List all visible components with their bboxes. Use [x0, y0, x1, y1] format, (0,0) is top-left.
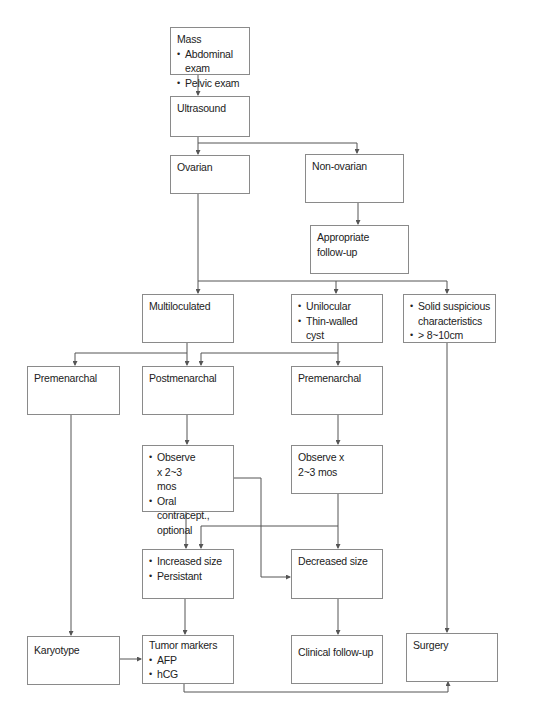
node-karyotype: Karyotype	[27, 636, 120, 685]
node-multiloculated: Multiloculated	[142, 294, 234, 343]
node-title: Multiloculated	[149, 299, 227, 314]
node-title: Ovarian	[177, 160, 243, 175]
node-increased-size: Increased size Persistant	[142, 549, 234, 599]
node-bullet: AFP	[149, 653, 227, 668]
node-bullet: Oral contracept., optional	[149, 494, 229, 538]
node-tumor-markers: Tumor markers AFP hCG	[142, 635, 234, 684]
node-bullet: Unilocular	[298, 299, 362, 314]
node-bullet: Observe x 2~3 mos	[149, 450, 229, 494]
connector-lines	[0, 0, 557, 721]
node-title: Tumor markers	[149, 638, 227, 653]
node-appropriate-follow-up: Appropriate follow-up	[310, 225, 409, 274]
node-observe-right: Observe x 2~3 mos	[291, 445, 383, 494]
node-bullet: Persistant	[149, 569, 227, 584]
node-title: Decreased size	[298, 554, 376, 569]
node-bullet: Thin-walled cyst	[298, 314, 362, 343]
node-observe-left: Observe x 2~3 mos Oral contracept., opti…	[142, 445, 234, 512]
node-ovarian: Ovarian	[170, 155, 250, 194]
node-bullet: hCG	[149, 667, 227, 682]
node-mass: Mass Abdominal exam Pelvic exam	[170, 27, 250, 75]
node-title: Postmenarchal	[149, 371, 227, 386]
node-unilocular: Unilocular Thin-walled cyst	[291, 294, 383, 343]
node-ultrasound: Ultrasound	[170, 96, 250, 137]
node-decreased-size: Decreased size	[291, 549, 383, 599]
node-premenarchal-left: Premenarchal	[27, 366, 120, 415]
node-title: Appropriate follow-up	[317, 230, 368, 259]
node-postmenarchal: Postmenarchal	[142, 366, 234, 415]
node-title: Clinical follow-up	[298, 645, 376, 660]
node-bullet: Pelvic exam	[177, 76, 243, 91]
node-title: Mass	[177, 32, 243, 47]
node-title: Premenarchal	[34, 371, 113, 386]
node-premenarchal-right: Premenarchal	[291, 366, 383, 415]
node-non-ovarian: Non-ovarian	[305, 154, 404, 203]
node-title: Premenarchal	[298, 371, 376, 386]
node-title: Non-ovarian	[312, 159, 397, 174]
node-surgery: Surgery	[406, 633, 498, 682]
node-title: Karyotype	[34, 643, 113, 658]
node-title: Ultrasound	[177, 101, 243, 116]
node-bullet: Abdominal exam	[177, 47, 243, 76]
node-bullet: Increased size	[149, 554, 227, 569]
node-solid-suspicious: Solid suspicious characteristics > 8~10c…	[403, 294, 496, 343]
node-clinical-follow-up: Clinical follow-up	[291, 635, 383, 684]
node-title: Surgery	[413, 638, 491, 653]
node-bullet: Solid suspicious characteristics	[410, 299, 493, 328]
node-title: Observe x 2~3 mos	[298, 450, 352, 479]
node-bullet: > 8~10cm	[410, 328, 493, 343]
